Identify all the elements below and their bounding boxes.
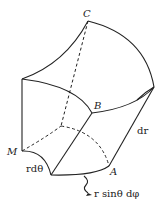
annotation-arrow [84, 176, 88, 193]
label-A: A [109, 166, 117, 177]
label-r-sin-dphi: r sinθ dφ [94, 188, 139, 199]
hidden-edge-M-to-corner [22, 126, 61, 151]
label-C: C [83, 8, 91, 19]
edge-right-inner [137, 87, 154, 100]
label-M: M [6, 146, 18, 157]
label-dr: dr [137, 125, 148, 136]
spherical-element-diagram: C B M A dr rdθ r sinθ dφ [0, 0, 162, 206]
edge-C-to-right [88, 21, 154, 87]
edge-top-left-to-B [22, 79, 92, 113]
edge-B-to-front-corner [51, 113, 92, 175]
hidden-edge-corner-to-A [61, 126, 109, 166]
label-B: B [93, 100, 101, 111]
edge-front-to-A [51, 166, 109, 175]
label-r-dtheta: rdθ [26, 163, 43, 174]
arrow-head-icon [86, 193, 92, 196]
hidden-edge-C-down [61, 21, 88, 126]
edge-top-left-to-C [22, 21, 88, 79]
